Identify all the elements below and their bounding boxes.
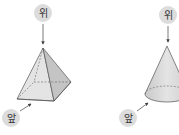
label-top: 위 bbox=[39, 7, 48, 19]
pyramid-front-view-label: 앞 bbox=[2, 109, 20, 127]
arrow-diagonal-icon bbox=[20, 104, 31, 111]
cone-front-view-label: 앞 bbox=[119, 109, 137, 127]
pyramid-top-view-label: 위 bbox=[34, 4, 52, 22]
diagram-canvas: 위 앞 위 앞 bbox=[0, 0, 179, 135]
label-front: 앞 bbox=[124, 113, 133, 124]
arrow-diagonal-icon bbox=[137, 103, 148, 111]
cone-top-view-label: 위 bbox=[159, 6, 177, 24]
label-top: 위 bbox=[164, 9, 173, 21]
label-front: 앞 bbox=[7, 113, 16, 124]
cone bbox=[145, 46, 179, 102]
square-pyramid bbox=[17, 48, 71, 101]
cone-surface bbox=[145, 46, 179, 102]
